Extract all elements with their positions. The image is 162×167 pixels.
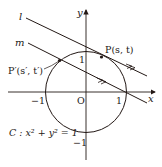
tick-y-pos: 1 xyxy=(79,54,85,65)
direction-arrow-m-2 xyxy=(100,80,106,85)
label-point-p: P(s, t) xyxy=(105,44,134,55)
label-origin: O xyxy=(77,95,85,106)
diagram-canvas: l m y x P(s, t) P′(s′, t′) 1 −1 −1 1 O C… xyxy=(0,0,162,167)
label-circle-equation: C : x² + y² = 1 xyxy=(9,127,78,138)
tick-x-neg: −1 xyxy=(31,95,45,106)
label-line-m: m xyxy=(15,37,24,48)
tick-x-pos: 1 xyxy=(116,95,122,106)
label-line-l: l xyxy=(19,11,22,22)
point-p xyxy=(100,55,103,58)
label-x-axis: x xyxy=(148,93,154,104)
tick-y-neg: −1 xyxy=(73,137,87,148)
p-prime-leader xyxy=(44,61,59,69)
label-y-axis: y xyxy=(76,7,83,18)
label-point-p-prime: P′(s′, t′) xyxy=(8,65,43,76)
